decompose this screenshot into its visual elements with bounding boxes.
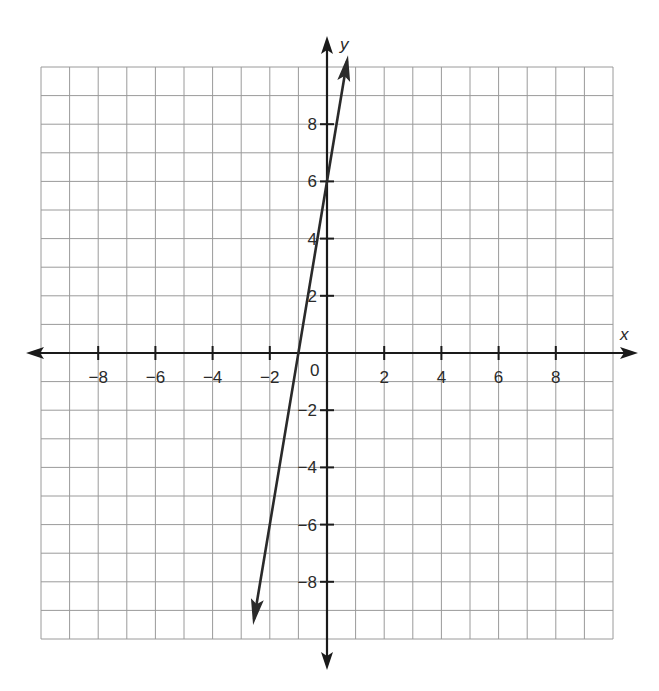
x-tick-label: 2 [379,368,388,387]
y-axis-label: y [339,35,350,54]
y-tick-label: −8 [298,573,317,592]
data-line [254,61,347,619]
x-tick-label: −8 [89,368,108,387]
origin-label: 0 [310,361,319,380]
x-axis-label: x [619,325,629,344]
x-tick-label: 4 [437,368,446,387]
x-tick-label: 8 [551,368,560,387]
x-tick-label: 6 [494,368,503,387]
plotted-line [251,55,350,625]
y-tick-label: 6 [308,172,317,191]
x-tick-label: −6 [146,368,165,387]
y-tick-label: −4 [298,458,317,477]
x-tick-label: −2 [260,368,279,387]
axes [26,36,638,670]
y-tick-label: 8 [308,115,317,134]
y-tick-label: −6 [298,516,317,535]
x-tick-label: −4 [203,368,222,387]
coordinate-plane: −8−6−4−224688642−2−4−6−8 x y 0 [0,0,659,691]
y-tick-label: −2 [298,401,317,420]
